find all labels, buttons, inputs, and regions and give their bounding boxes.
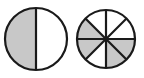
fraction-circles-svg xyxy=(0,0,144,78)
shaded-sector xyxy=(5,8,36,70)
fraction-figure xyxy=(0,0,144,78)
eighths-circle-diagram xyxy=(77,10,135,68)
half-circle-diagram xyxy=(5,8,67,70)
circles-canvas xyxy=(0,0,144,78)
